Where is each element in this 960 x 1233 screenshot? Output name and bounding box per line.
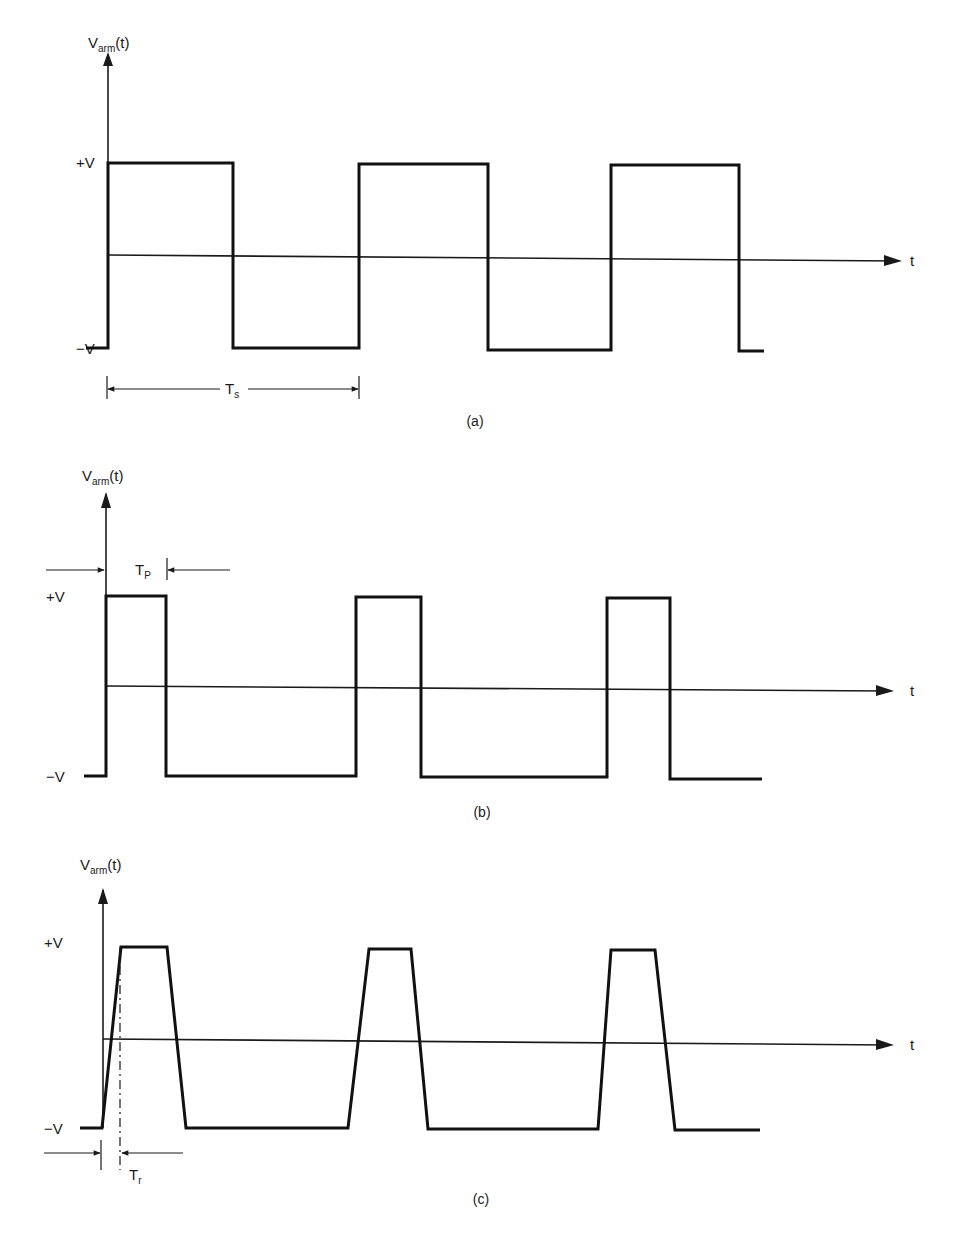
pulse-width-label: TP bbox=[135, 561, 151, 581]
x-axis-arrow-icon bbox=[884, 255, 902, 266]
x-axis bbox=[103, 1039, 888, 1045]
y-axis-label: Varm(t) bbox=[88, 34, 129, 54]
waveform-figure: Varm(t) t +V −V Ts (a) Varm(t) t +V −V T… bbox=[0, 0, 960, 1233]
x-axis-arrow-icon bbox=[876, 1039, 894, 1050]
y-axis-arrow-icon bbox=[98, 888, 108, 904]
x-axis bbox=[106, 686, 888, 691]
level-high-label: +V bbox=[46, 588, 65, 605]
x-axis-label: t bbox=[910, 682, 915, 699]
x-axis-label: t bbox=[910, 252, 915, 269]
panel-c: Varm(t) t +V −V Tr (c) bbox=[44, 856, 915, 1207]
level-high-label: +V bbox=[44, 934, 63, 951]
level-high-label: +V bbox=[76, 154, 95, 171]
y-axis-label: Varm(t) bbox=[82, 467, 123, 487]
y-axis-label: Varm(t) bbox=[80, 856, 121, 876]
y-axis-arrow-icon bbox=[103, 52, 113, 66]
x-axis-label: t bbox=[910, 1036, 915, 1053]
panel-b: Varm(t) t +V −V TP (b) bbox=[46, 467, 915, 820]
level-low-label: −V bbox=[46, 768, 65, 785]
x-axis bbox=[108, 255, 898, 261]
level-low-label: −V bbox=[44, 1120, 63, 1137]
panel-a: Varm(t) t +V −V Ts (a) bbox=[76, 34, 915, 429]
y-axis-arrow-icon bbox=[101, 492, 111, 508]
rise-time-label: Tr bbox=[129, 1166, 142, 1186]
x-axis-arrow-icon bbox=[876, 685, 894, 696]
period-label: Ts bbox=[225, 380, 239, 400]
panel-caption: (b) bbox=[473, 804, 490, 820]
panel-caption: (a) bbox=[466, 413, 483, 429]
panel-caption: (c) bbox=[473, 1191, 489, 1207]
trapezoidal-waveform bbox=[80, 947, 760, 1130]
